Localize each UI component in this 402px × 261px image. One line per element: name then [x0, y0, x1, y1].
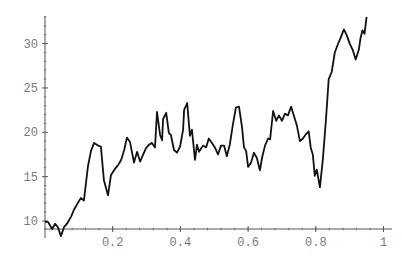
y-axis-tick-labels: 1015202530 [24, 38, 38, 229]
y-tick-label: 20 [24, 126, 38, 140]
y-tick-label: 10 [24, 215, 38, 229]
x-axis-tick-labels: 0.20.40.60.81 [102, 236, 387, 250]
x-tick-label: 0.6 [237, 236, 259, 250]
y-tick-label: 15 [24, 171, 38, 185]
x-tick-label: 0.2 [102, 236, 124, 250]
x-tick-label: 0.8 [305, 236, 327, 250]
data-series-line [45, 17, 367, 236]
x-tick-label: 0.4 [170, 236, 192, 250]
minor-ticks [44, 17, 384, 231]
line-chart: 0.20.40.60.81 1015202530 [0, 0, 402, 261]
y-tick-label: 25 [24, 82, 38, 96]
y-tick-label: 30 [24, 38, 38, 52]
x-tick-label: 1 [380, 236, 387, 250]
